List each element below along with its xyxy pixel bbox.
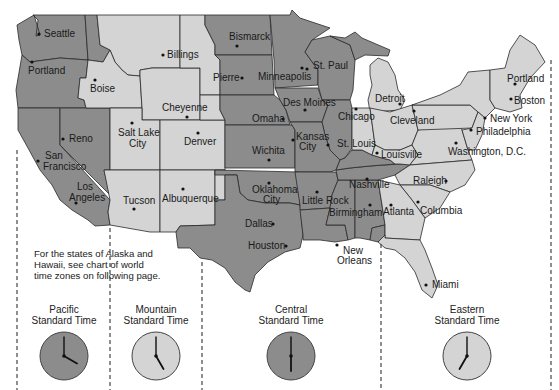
zone-label-eastern: Eastern Standard Time [422, 304, 512, 326]
city-label-san-francisco-2: Francisco [43, 161, 87, 172]
city-label-raleigh: Raleigh [413, 175, 447, 186]
city-label-bismarck: Bismarck [229, 31, 271, 42]
zone-name-pacific: Pacific [19, 304, 109, 315]
city-dot-reno [61, 137, 64, 140]
city-dot-columbia [416, 200, 419, 203]
city-label-omaha: Omaha [252, 113, 285, 124]
city-label-dallas: Dallas [245, 218, 273, 229]
city-label-portland-me: Portland [507, 73, 544, 84]
zone-subtitle-eastern: Standard Time [422, 315, 512, 326]
city-label-houston: Houston [248, 240, 285, 251]
city-label-denver: Denver [184, 136, 217, 147]
city-label-atlanta: Atlanta [383, 206, 415, 217]
city-dot-kansas-city [291, 138, 294, 141]
city-dot-pierre [240, 76, 243, 79]
city-dot-boise [93, 78, 96, 81]
city-label-louisville: Louisville [381, 149, 423, 160]
city-label-boston: Boston [514, 95, 545, 106]
zone-subtitle-central: Standard Time [246, 315, 336, 326]
city-label-billings: Billings [167, 49, 199, 60]
city-dot-washington-dc [454, 141, 457, 144]
city-dot-louisville [375, 151, 378, 154]
city-dot-salt-lake-city [130, 121, 133, 124]
state-oregon [16, 55, 88, 108]
city-label-birmingham: Birmingham [329, 207, 382, 218]
city-label-nashville: Nashville [349, 179, 390, 190]
city-label-pierre: Pierre [213, 72, 240, 83]
city-label-cleveland: Cleveland [390, 115, 434, 126]
city-label-portland-or: Portland [28, 65, 65, 76]
alaska-hawaii-note: For the states of Alaska and Hawaii, see… [34, 248, 164, 281]
city-label-wichita: Wichita [252, 145, 285, 156]
city-label-boise: Boise [90, 83, 115, 94]
city-dot-st-louis [326, 143, 329, 146]
city-dot-denver [196, 131, 199, 134]
city-label-albuquerque: Albuquerque [162, 193, 219, 204]
city-label-minneapolis: Minneapolis [258, 71, 311, 82]
city-label-des-moines: Des Moines [283, 97, 336, 108]
city-label-chicago: Chicago [338, 111, 375, 122]
city-label-kansas-city-2: City [299, 141, 316, 152]
zone-label-mountain: Mountain Standard Time [111, 304, 201, 326]
city-label-st-paul: St. Paul [313, 60, 348, 71]
city-label-salt-lake-2: City [129, 138, 146, 149]
city-label-reno: Reno [69, 133, 93, 144]
zone-name-eastern: Eastern [422, 304, 512, 315]
state-ohio [370, 105, 418, 150]
clock-hub [62, 354, 66, 358]
city-label-miami: Miami [432, 279, 459, 290]
city-label-new-york: New York [490, 113, 533, 124]
city-label-san-francisco-1: San [45, 150, 63, 161]
clock-pacific [38, 330, 90, 382]
zone-name-central: Central [246, 304, 336, 315]
city-dot-seattle [37, 32, 40, 35]
city-dot-tucson [132, 207, 135, 210]
city-dot-little-rock [315, 190, 318, 193]
zone-subtitle-mountain: Standard Time [111, 315, 201, 326]
zone-name-mountain: Mountain [111, 304, 201, 315]
city-label-st-louis: St. Louis [337, 138, 376, 149]
city-dot-miami [424, 283, 427, 286]
city-label-little-rock: Little Rock [302, 195, 350, 206]
clock-hub [289, 354, 293, 358]
city-label-philadelphia: Philadelphia [476, 126, 531, 137]
city-dot-minneapolis [300, 66, 303, 69]
clock-hub [154, 354, 158, 358]
city-label-seattle: Seattle [44, 28, 76, 39]
city-label-los-angeles-2: Angeles [69, 192, 105, 203]
zone-label-central: Central Standard Time [246, 304, 336, 326]
city-dot-boston [509, 97, 512, 100]
clock-mountain [130, 330, 182, 382]
city-dot-philadelphia [469, 128, 472, 131]
city-dot-new-york [483, 116, 486, 119]
city-label-los-angeles-1: Los [77, 181, 93, 192]
city-label-oklahoma-city-2: City [263, 194, 280, 205]
city-label-cheyenne: Cheyenne [162, 102, 208, 113]
city-dot-wichita [267, 158, 270, 161]
city-dot-new-orleans [335, 243, 338, 246]
city-label-salt-lake-1: Salt Lake [118, 127, 160, 138]
city-dot-des-moines [303, 108, 306, 111]
city-dot-albuquerque [181, 187, 184, 190]
zone-label-pacific: Pacific Standard Time [19, 304, 109, 326]
zone-subtitle-pacific: Standard Time [19, 315, 109, 326]
city-label-columbia: Columbia [420, 205, 463, 216]
city-dot-cleveland [412, 109, 415, 112]
clock-central [265, 330, 317, 382]
city-label-new-orleans-2: Orleans [337, 255, 372, 266]
city-dot-portland-or [30, 60, 33, 63]
city-label-tucson: Tucson [123, 195, 155, 206]
city-dot-san-francisco [36, 159, 39, 162]
city-dot-cheyenne [185, 115, 188, 118]
city-dot-billings [161, 53, 164, 56]
city-label-detroit: Detroit [375, 93, 405, 104]
state-florida [378, 235, 438, 298]
city-dot-bismarck [235, 44, 238, 47]
city-label-washington-dc: Washington, D.C. [448, 146, 526, 157]
clock-hub [465, 354, 469, 358]
clock-eastern [441, 330, 493, 382]
